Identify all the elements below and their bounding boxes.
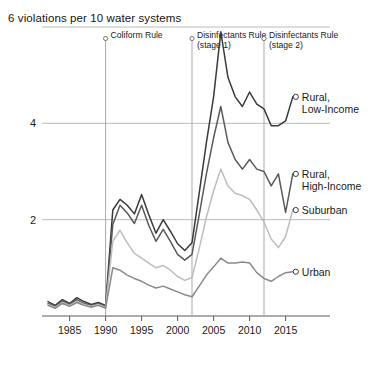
series-endpoint-marker-2 (293, 171, 298, 176)
x-axis-tick-label-2005: 2005 (202, 324, 226, 336)
series-endpoint-marker-1 (293, 94, 298, 99)
series-line-suburban (48, 169, 293, 307)
series-label-3: Suburban (302, 204, 348, 216)
y-axis-tick-label-4: 4 (30, 117, 36, 129)
line-chart: 241985199019952000200520102015Coliform R… (0, 0, 380, 370)
annotation-label-2: Disinfectants Rule (197, 30, 266, 40)
annotation-label-1: Coliform Rule (111, 30, 163, 40)
series-label-1: Rural, (302, 91, 330, 103)
series-label-2-line2: High-Income (302, 180, 362, 192)
x-axis-tick-label-1985: 1985 (58, 324, 82, 336)
series-label-1-line2: Low-Income (302, 103, 359, 115)
annotation-marker-3 (262, 36, 266, 40)
x-axis-tick-label-1995: 1995 (130, 324, 154, 336)
x-axis-tick-label-2015: 2015 (274, 324, 298, 336)
series-line-urban (48, 258, 293, 308)
chart-container: 6 violations per 10 water systems 241985… (0, 0, 380, 370)
series-endpoint-marker-3 (293, 207, 298, 212)
x-axis-tick-label-2000: 2000 (166, 324, 190, 336)
series-label-2: Rural, (302, 168, 330, 180)
series-label-4: Urban (302, 266, 331, 278)
annotation-sublabel-3: (stage 2) (269, 40, 303, 50)
series-endpoint-marker-4 (293, 269, 298, 274)
x-axis-tick-label-1990: 1990 (94, 324, 118, 336)
x-axis-tick-label-2010: 2010 (238, 324, 262, 336)
y-axis-tick-label-2: 2 (30, 214, 36, 226)
series-line-rural-high-income (48, 106, 293, 306)
annotation-marker-2 (190, 36, 194, 40)
annotation-marker-1 (104, 36, 108, 40)
annotation-sublabel-2: (stage 1) (197, 40, 231, 50)
annotation-label-3: Disinfectants Rule (269, 30, 338, 40)
